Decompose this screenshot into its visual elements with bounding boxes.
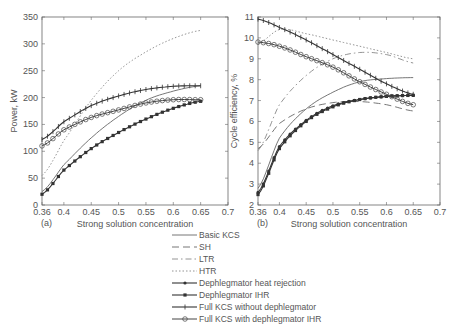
series-line <box>258 101 413 148</box>
x-tick-label: 0.65 <box>192 207 210 217</box>
series-line <box>258 29 413 59</box>
x-axis-label: Strong solution concentration <box>77 219 194 229</box>
y-tick-label: 6 <box>249 116 254 126</box>
legend-item-label: HTR <box>199 266 216 276</box>
y-tick-label: 50 <box>28 173 38 183</box>
legend-item-label: SH <box>199 242 211 252</box>
y-tick-label: 2 <box>249 200 254 210</box>
panel-a: 0.360.40.450.50.550.60.650.7050100150200… <box>9 12 234 229</box>
series-line <box>42 101 201 194</box>
x-tick-label: 0.7 <box>222 207 235 217</box>
x-tick-label: 0.4 <box>273 207 286 217</box>
y-tick-label: 250 <box>23 66 38 76</box>
y-tick-label: 11 <box>245 12 254 22</box>
series-line <box>42 86 201 192</box>
y-tick-label: 10 <box>244 33 254 43</box>
y-tick-label: 300 <box>23 39 38 49</box>
y-tick-label: 5 <box>249 137 254 147</box>
panel-label: (b) <box>257 218 268 228</box>
y-tick-label: 350 <box>23 12 38 22</box>
y-tick-label: 9 <box>249 54 254 64</box>
y-tick-label: 7 <box>249 96 254 106</box>
x-tick-label: 0.55 <box>351 207 369 217</box>
y-tick-label: 100 <box>23 146 38 156</box>
legend-item-label: LTR <box>199 254 214 264</box>
chart-canvas: 0.360.40.450.50.550.60.650.7050100150200… <box>0 0 456 326</box>
legend-item-label: Full KCS without dephlegmator <box>199 302 316 312</box>
x-tick-label: 0.6 <box>167 207 180 217</box>
legend-item-label: Dephlegmator heat rejection <box>199 278 306 288</box>
y-tick-label: 0 <box>33 200 38 210</box>
y-tick-label: 3 <box>249 179 254 189</box>
series-line <box>42 30 201 175</box>
x-tick-label: 0.45 <box>297 207 315 217</box>
legend-item-label: Basic KCS <box>199 230 240 240</box>
x-tick-label: 0.7 <box>434 207 447 217</box>
y-tick-label: 4 <box>249 158 254 168</box>
y-axis-label: Cycle efficiency, % <box>229 74 239 149</box>
series-line <box>258 19 413 94</box>
legend-item-label: Full KCS with dephlegmator IHR <box>199 314 321 324</box>
y-tick-label: 200 <box>23 93 38 103</box>
plot-frame <box>42 17 228 205</box>
legend: Basic KCSSHLTRHTRDephlegmator heat rejec… <box>172 230 321 324</box>
x-tick-label: 0.65 <box>404 207 422 217</box>
series-line <box>42 100 201 146</box>
x-tick-label: 0.5 <box>112 207 125 217</box>
series-line <box>258 95 413 192</box>
x-tick-label: 0.45 <box>82 207 100 217</box>
y-axis-label: Power, kW <box>9 89 19 133</box>
y-tick-label: 8 <box>249 75 254 85</box>
figure: 0.360.40.450.50.550.60.650.7050100150200… <box>0 0 456 326</box>
x-axis-label: Strong solution concentration <box>291 219 408 229</box>
x-tick-label: 0.55 <box>137 207 155 217</box>
x-tick-label: 0.5 <box>327 207 340 217</box>
panel-b: 0.360.40.450.50.550.60.650.7234567891011… <box>229 12 446 229</box>
x-tick-label: 0.6 <box>380 207 393 217</box>
panel-label: (a) <box>41 218 52 228</box>
legend-item-label: Dephlegmator IHR <box>199 290 269 300</box>
x-tick-label: 0.4 <box>58 207 71 217</box>
plot-frame <box>258 17 440 205</box>
series-line <box>258 78 413 189</box>
y-tick-label: 150 <box>23 119 38 129</box>
